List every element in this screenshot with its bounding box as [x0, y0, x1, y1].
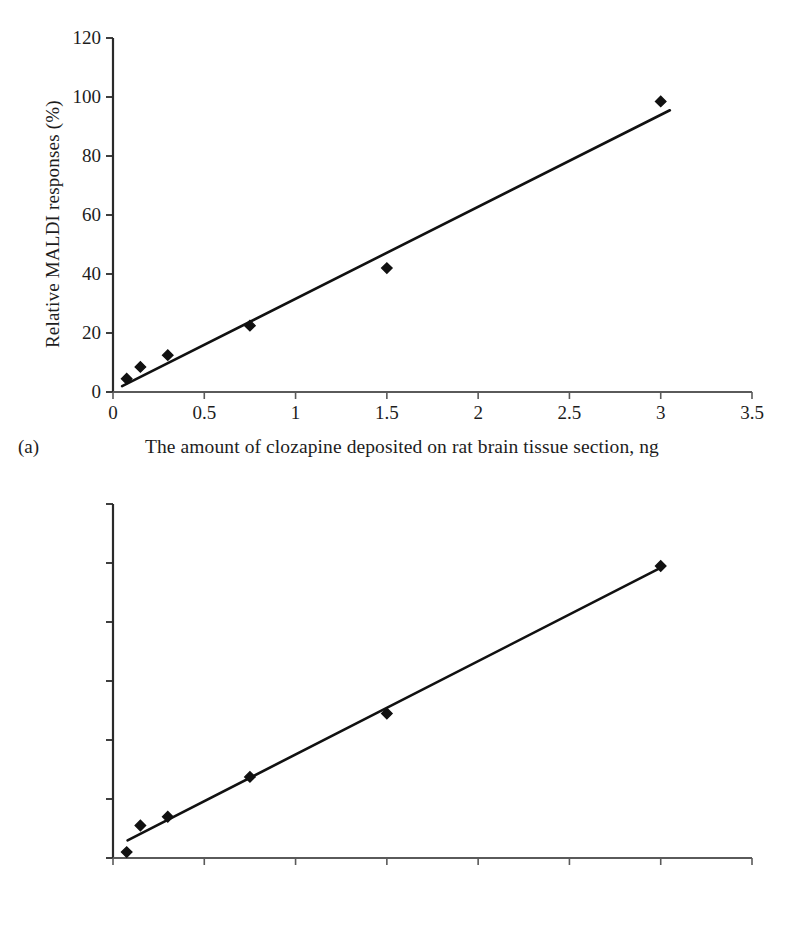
data-point [245, 320, 255, 330]
trend-line [122, 110, 670, 386]
x-axis-label-a: The amount of clozapine deposited on rat… [145, 436, 659, 458]
y-tick-label: 80 [82, 145, 101, 167]
x-tick-label: 1.5 [375, 402, 399, 424]
y-tick-label: 60 [82, 204, 101, 226]
x-tick-label: 1 [291, 402, 301, 424]
chart-panel-b: Relative MALDI responses (%) The amount … [0, 472, 799, 943]
y-axis-label-a: Relative MALDI responses (%) [42, 100, 64, 348]
plot-area-b [0, 472, 799, 943]
y-tick-label: 100 [73, 86, 102, 108]
y-tick-label: 40 [82, 263, 101, 285]
plot-area-a [0, 0, 799, 471]
x-tick-label: 2.5 [558, 402, 582, 424]
data-point [121, 847, 131, 857]
chart-panel-a: Relative MALDI responses (%) The amount … [0, 0, 799, 471]
y-tick-label: 0 [92, 381, 102, 403]
trend-line [128, 566, 665, 840]
data-point [382, 263, 392, 273]
x-tick-label: 3.5 [740, 402, 764, 424]
x-tick-label: 3 [656, 402, 666, 424]
y-tick-label: 120 [73, 27, 102, 49]
data-point [135, 362, 145, 372]
y-tick-label: 20 [82, 322, 101, 344]
panel-tag-a: (a) [18, 436, 39, 458]
figure-container: Relative MALDI responses (%) The amount … [0, 0, 799, 943]
data-point [656, 96, 666, 106]
data-point [135, 820, 145, 830]
x-tick-label: 0 [108, 402, 118, 424]
data-point [163, 350, 173, 360]
x-tick-label: 2 [473, 402, 483, 424]
x-tick-label: 0.5 [192, 402, 216, 424]
